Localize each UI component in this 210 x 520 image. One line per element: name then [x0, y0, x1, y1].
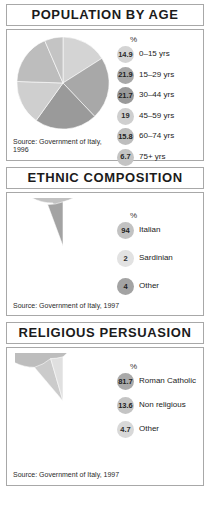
- pie-svg: [15, 198, 111, 294]
- legend-label-italian: Italian: [139, 226, 160, 235]
- legend-badge-non-religious: 13.6: [117, 397, 134, 414]
- legend-item: 15.8 60–74 yrs: [117, 128, 198, 145]
- legend-item: 19 45–59 yrs: [117, 108, 198, 125]
- legend-label-45-59-yrs: 45–59 yrs: [139, 112, 174, 121]
- legend-population-by-age: % 14.9 0–15 yrs 21.9 15–29 yrs 21.7 30–4…: [113, 35, 198, 169]
- panel-religious-persuasion: RELIGIOUS PERSUASION: [6, 322, 204, 486]
- panel-title-population-by-age: POPULATION BY AGE: [6, 4, 204, 26]
- panel-body-population-by-age: % 14.9 0–15 yrs 21.9 15–29 yrs 21.7 30–4…: [6, 29, 204, 161]
- legend-label-non-religious: Non religious: [139, 401, 186, 410]
- legend-ethnic-composition: % 94 Italian 2 Sardinian 4 Other: [113, 198, 198, 306]
- source-note-religious-persuasion: Source: Government of Italy, 1997: [13, 467, 119, 480]
- legend-label-sardinian: Sardinian: [139, 254, 173, 263]
- source-note-population-by-age: Source: Government of Italy, 1996: [13, 134, 118, 156]
- pie-chart-ethnic-composition: [12, 198, 113, 294]
- legend-label-other: Other: [139, 282, 159, 291]
- legend-label-30-44-yrs: 30–44 yrs: [139, 91, 174, 100]
- legend-badge-other: 4: [117, 278, 134, 295]
- legend-badge-sardinian: 2: [117, 250, 134, 267]
- legend-badge-45-59-yrs: 19: [117, 108, 134, 125]
- legend-percent-header: %: [130, 363, 198, 371]
- panel-body-ethnic-composition: % 94 Italian 2 Sardinian 4 Other Sour: [6, 192, 204, 316]
- chart-row: % 81.7 Roman Catholic 13.6 Non religious…: [12, 353, 198, 449]
- legend-label-other: Other: [139, 425, 159, 434]
- legend-item: 4 Other: [117, 278, 198, 295]
- legend-label-15-29-yrs: 15–29 yrs: [139, 71, 174, 80]
- panel-body-religious-persuasion: % 81.7 Roman Catholic 13.6 Non religious…: [6, 347, 204, 486]
- legend-badge-other: 4.7: [117, 421, 134, 438]
- chart-row: % 94 Italian 2 Sardinian 4 Other: [12, 198, 198, 306]
- panel-ethnic-composition: ETHNIC COMPOSITION: [6, 167, 204, 316]
- legend-badge-60-74-yrs: 15.8: [117, 128, 134, 145]
- legend-badge-italian: 94: [117, 222, 134, 239]
- legend-item: 4.7 Other: [117, 421, 198, 438]
- legend-item: 81.7 Roman Catholic: [117, 373, 198, 390]
- pie-chart-population-by-age: [12, 35, 113, 131]
- legend-badge-0-15-yrs: 14.9: [117, 46, 134, 63]
- legend-item: 13.6 Non religious: [117, 397, 198, 414]
- legend-label-60-74-yrs: 60–74 yrs: [139, 132, 174, 141]
- legend-item: 2 Sardinian: [117, 250, 198, 267]
- pie-chart-religious-persuasion: [12, 353, 113, 449]
- legend-label-75-plus-yrs: 75+ yrs: [139, 153, 165, 162]
- legend-item: 21.7 30–44 yrs: [117, 87, 198, 104]
- pie-svg: [15, 353, 111, 449]
- legend-item: 94 Italian: [117, 222, 198, 239]
- legend-item: 21.9 15–29 yrs: [117, 67, 198, 84]
- legend-percent-header: %: [130, 36, 198, 44]
- legend-label-roman-catholic: Roman Catholic: [139, 377, 196, 386]
- panel-population-by-age: POPULATION BY AGE: [6, 4, 204, 161]
- legend-item: 14.9 0–15 yrs: [117, 46, 198, 63]
- legend-badge-15-29-yrs: 21.9: [117, 67, 134, 84]
- pie-slice-other: [47, 202, 62, 246]
- source-note-ethnic-composition: Source: Government of Italy, 1997: [13, 298, 119, 311]
- panel-title-religious-persuasion: RELIGIOUS PERSUASION: [6, 322, 204, 344]
- legend-item: 6.7 75+ yrs: [117, 149, 198, 166]
- pie-svg: [15, 35, 111, 131]
- infographic-sheet: POPULATION BY AGE: [0, 0, 210, 520]
- panel-title-ethnic-composition: ETHNIC COMPOSITION: [6, 167, 204, 189]
- legend-label-0-15-yrs: 0–15 yrs: [139, 50, 170, 59]
- legend-badge-roman-catholic: 81.7: [117, 373, 134, 390]
- legend-badge-30-44-yrs: 21.7: [117, 87, 134, 104]
- legend-religious-persuasion: % 81.7 Roman Catholic 13.6 Non religious…: [113, 353, 198, 445]
- legend-percent-header: %: [130, 212, 198, 220]
- legend-badge-75-plus-yrs: 6.7: [117, 149, 134, 166]
